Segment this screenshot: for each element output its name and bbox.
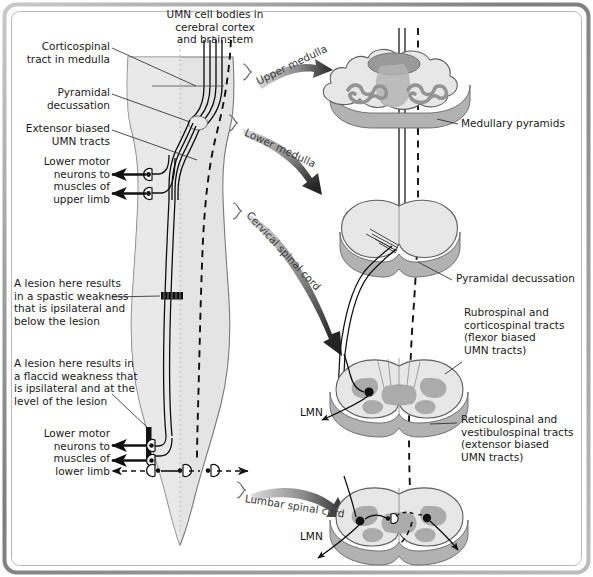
label-lmn-lower-limb: Lower motor neurons to muscles of lower … [4,427,110,477]
label-lmn-cervical: LMN [300,406,323,419]
label-lmn-upper-limb: Lower motor neurons to muscles of upper … [6,155,110,205]
pointer-arrows [243,59,348,517]
label-lmn-lumbar: LMN [300,530,323,543]
label-reticulospinal-tracts: Reticulospinal and vestibulospinal tract… [461,413,593,463]
label-umn-cell-bodies: UMN cell bodies in cerebral cortex and b… [140,8,290,46]
lumbar-cross-section [318,476,468,565]
label-medullary-pyramids: Medullary pyramids [461,117,589,130]
medulla-cross-section [323,49,470,128]
label-pyramidal-decussation-left: Pyramidal decussation [10,86,110,111]
label-pyramidal-decussation-right: Pyramidal decussation [456,272,592,285]
spastic-lesion-marker [161,292,183,300]
label-corticospinal-tract: Corticospinal tract in medulla [10,40,110,65]
bracket-cervical [233,203,242,219]
label-rubrospinal-tracts: Rubrospinal and corticospinal tracts (fl… [464,306,592,356]
label-lesion-flaccid: A lesion here results in a flaccid weakn… [14,357,148,407]
label-extensor-biased-umn-tracts: Extensor biased UMN tracts [8,122,110,147]
label-lesion-spastic: A lesion here results in a spastic weakn… [14,277,140,327]
figure-canvas: UMN cell bodies in cerebral cortex and b… [0,0,593,577]
bracket-upper-medulla [243,64,252,80]
